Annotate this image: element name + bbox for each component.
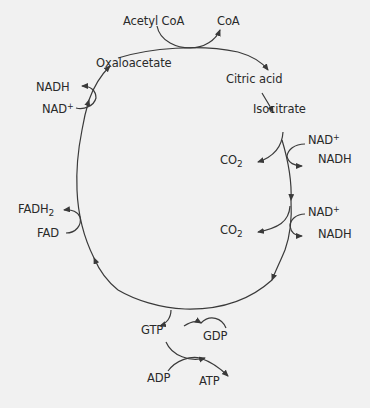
label-atp: ATP (199, 376, 220, 388)
label-co2-1: CO2 (220, 155, 243, 169)
label-fad: FAD (37, 228, 59, 240)
label-nad-plus-3: NAD+ (42, 103, 74, 116)
label-coa: CoA (217, 16, 240, 28)
label-nad-plus-1: NAD+ (308, 134, 340, 147)
label-nadh-1: NADH (318, 154, 352, 166)
label-oxaloacetate: Oxaloacetate (96, 58, 172, 70)
label-co2-2: CO2 (220, 225, 243, 239)
label-gtp: GTP (141, 325, 163, 337)
label-adp: ADP (147, 373, 170, 385)
label-isocitrate: Isocitrate (253, 104, 306, 116)
label-nadh-3: NADH (36, 82, 70, 94)
label-acetyl-coa: Acetyl CoA (123, 16, 184, 28)
label-gdp: GDP (203, 331, 227, 343)
label-nadh-2: NADH (318, 229, 352, 241)
label-fadh2: FADH2 (18, 204, 54, 218)
cycle-arrows (0, 0, 370, 408)
citric-acid-cycle-diagram: Acetyl CoA CoA Oxaloacetate Citric acid … (0, 0, 370, 408)
label-nad-plus-2: NAD+ (308, 206, 340, 219)
label-citric-acid: Citric acid (226, 74, 282, 86)
